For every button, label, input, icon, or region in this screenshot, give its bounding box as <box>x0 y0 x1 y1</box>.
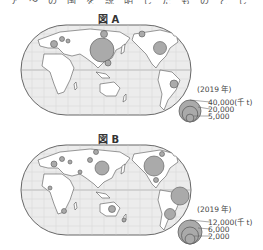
world-map-b <box>20 144 192 236</box>
legend-b-value-3: 2,000 <box>208 233 229 240</box>
question-text: ア ～ の 国 を 説 明 し た も の と し て 正 し い も の を … <box>10 0 250 4</box>
legend-b-year: (2019 年) <box>197 203 231 214</box>
legend-b-circles <box>176 218 212 246</box>
legend-a-value-3: 5,000 <box>208 113 229 120</box>
legend-a-circles <box>176 98 212 124</box>
legend-a-year: (2019 年) <box>197 83 231 94</box>
world-map-a <box>20 24 192 116</box>
